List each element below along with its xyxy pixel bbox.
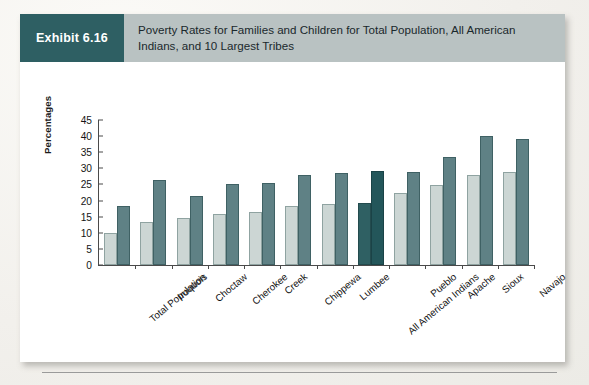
x-label-navajo: Navajo xyxy=(537,271,567,299)
bar-children xyxy=(190,196,203,265)
y-tick-30: 30 xyxy=(81,163,92,174)
y-tick-15: 15 xyxy=(81,211,92,222)
x-label-sioux: Sioux xyxy=(499,271,525,295)
exhibit-title: Poverty Rates for Families and Children … xyxy=(124,14,565,62)
chart-panel: Percentages 051015202530354045 Total Pop… xyxy=(20,62,565,362)
bar-families xyxy=(358,203,371,265)
y-tick-40: 40 xyxy=(81,131,92,142)
exhibit-card: Exhibit 6.16 Poverty Rates for Families … xyxy=(20,14,565,362)
x-label-apache: Apache xyxy=(465,271,498,301)
bar-children xyxy=(262,183,275,265)
y-tick-20: 20 xyxy=(81,195,92,206)
bar-children xyxy=(371,171,384,265)
bar-families xyxy=(249,212,262,265)
bar-families xyxy=(285,206,298,265)
x-label-all-american-indians: All American Indians xyxy=(406,271,481,336)
bar-families xyxy=(322,204,335,265)
bar-families xyxy=(140,222,153,266)
bar-children xyxy=(516,139,529,265)
x-axis-line xyxy=(98,265,534,266)
bar-group xyxy=(353,120,389,265)
bar-group xyxy=(498,120,534,265)
bar-families xyxy=(213,214,226,265)
bar-children xyxy=(153,180,166,265)
x-label-iroquois: Iroquois xyxy=(176,271,210,302)
bar-group xyxy=(99,120,135,265)
bar-children xyxy=(298,175,311,265)
y-tick-5: 5 xyxy=(86,243,92,254)
bar-families xyxy=(394,193,407,265)
page-divider-rule xyxy=(42,372,557,373)
y-tick-25: 25 xyxy=(81,179,92,190)
bar-group xyxy=(172,120,208,265)
bar-children xyxy=(117,206,130,265)
bar-group xyxy=(425,120,461,265)
y-tick-10: 10 xyxy=(81,227,92,238)
bar-group xyxy=(280,120,316,265)
exhibit-number-badge: Exhibit 6.16 xyxy=(20,14,124,62)
bar-families xyxy=(104,233,117,265)
bar-families xyxy=(503,172,516,265)
bar-children xyxy=(443,157,456,265)
bar-children xyxy=(407,172,420,265)
y-tick-45: 45 xyxy=(81,115,92,126)
bar-group xyxy=(389,120,425,265)
x-label-cherokee: Cherokee xyxy=(250,271,290,307)
x-label-creek: Creek xyxy=(282,271,309,296)
bar-group xyxy=(244,120,280,265)
x-label-lumbee: Lumbee xyxy=(357,271,391,302)
x-tick-mark xyxy=(534,265,535,269)
bar-children xyxy=(335,173,348,265)
x-label-chippewa: Chippewa xyxy=(323,271,363,307)
bar-families xyxy=(467,175,480,265)
bar-children xyxy=(480,136,493,265)
bar-families xyxy=(430,185,443,265)
bar-group xyxy=(317,120,353,265)
x-label-choctaw: Choctaw xyxy=(213,271,249,304)
bar-group xyxy=(208,120,244,265)
plot-area xyxy=(99,120,534,265)
bar-group xyxy=(462,120,498,265)
y-tick-0: 0 xyxy=(86,260,92,271)
y-axis-tick-labels: 051015202530354045 xyxy=(64,120,98,265)
x-label-pueblo: Pueblo xyxy=(428,271,458,299)
bar-families xyxy=(177,218,190,265)
y-tick-35: 35 xyxy=(81,147,92,158)
x-label-total-population: Total Population xyxy=(147,271,207,324)
y-axis-label: Percentages xyxy=(42,96,53,154)
exhibit-header: Exhibit 6.16 Poverty Rates for Families … xyxy=(20,14,565,62)
bar-group xyxy=(135,120,171,265)
bar-children xyxy=(226,184,239,265)
